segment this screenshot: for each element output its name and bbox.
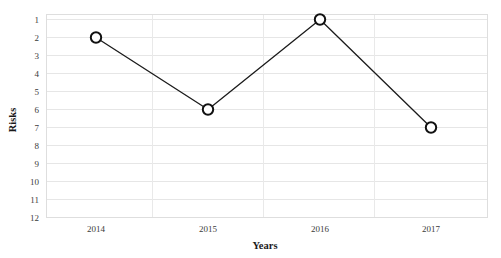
x-tick-label: 2014 [87,224,106,234]
chart-page: 1 2 3 4 5 6 7 8 9 10 11 12 2014 2015 201… [0,0,501,258]
y-tick-label: 4 [35,69,40,79]
x-tick-label: 2015 [199,224,218,234]
y-tick-label: 5 [35,87,40,97]
y-tick-label: 2 [35,33,40,43]
y-tick-label: 10 [30,177,40,187]
y-axis-title: Risks [7,108,18,133]
y-tick-label: 12 [30,213,39,223]
y-tick-label: 9 [35,159,40,169]
data-point-2014[interactable] [91,32,101,42]
x-tick-label: 2016 [311,224,330,234]
data-point-2017[interactable] [426,122,436,132]
y-axis-tick-labels: 1 2 3 4 5 6 7 8 9 10 11 12 [30,15,40,223]
y-tick-label: 7 [35,123,40,133]
x-tick-label: 2017 [422,224,441,234]
y-tick-label: 6 [35,105,40,115]
y-tick-label: 3 [35,51,40,61]
x-axis-title: Years [252,240,277,251]
x-axis-tick-labels: 2014 2015 2016 2017 [87,224,441,234]
y-tick-label: 11 [30,195,39,205]
y-tick-label: 8 [35,141,40,151]
plot-background [46,14,488,218]
y-tick-label: 1 [35,15,40,25]
data-point-2015[interactable] [203,104,213,114]
data-point-2016[interactable] [315,14,325,24]
line-chart: 1 2 3 4 5 6 7 8 9 10 11 12 2014 2015 201… [0,0,501,258]
